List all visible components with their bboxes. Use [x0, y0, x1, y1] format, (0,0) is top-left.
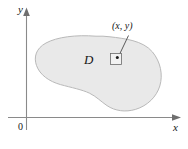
region-d-outline — [35, 36, 161, 111]
sample-point-label: (x, y) — [112, 21, 133, 31]
y-axis-arrowhead-icon — [23, 8, 30, 17]
x-axis-arrowhead-icon — [172, 114, 181, 121]
figure-container: y x 0 D (x, y) — [0, 0, 188, 149]
marker-dot-icon — [116, 56, 119, 59]
region-d-shape — [35, 36, 161, 111]
marker-square-icon — [111, 54, 122, 65]
x-axis — [8, 114, 181, 121]
origin-label: 0 — [18, 122, 23, 132]
sample-point-marker — [111, 54, 122, 65]
region-d-label: D — [84, 53, 93, 66]
y-axis-label: y — [18, 4, 23, 15]
figure-canvas — [0, 0, 188, 149]
x-axis-label: x — [173, 122, 178, 133]
y-axis — [23, 8, 30, 131]
